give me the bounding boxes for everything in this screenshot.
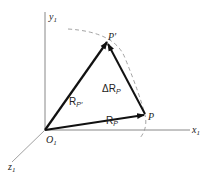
vector-r-p-prime <box>45 42 107 130</box>
x-axis-label: x1 <box>191 124 200 137</box>
vector-delta-r-p-label: ΔRP <box>102 83 121 95</box>
z-axis <box>12 130 45 162</box>
point-p-prime-label: P′ <box>107 31 117 42</box>
vector-r-p-prime-label: RP′ <box>69 96 83 108</box>
vector-r-p-label: RP <box>106 115 118 127</box>
z-axis-label: z1 <box>7 161 15 173</box>
point-p-label: P <box>147 111 154 122</box>
y-axis-label: y1 <box>48 11 57 24</box>
vector-delta-r-p <box>108 44 145 114</box>
origin-label: O1 <box>46 134 57 147</box>
vector-r-p <box>45 115 144 130</box>
position-difference-diagram: y1 x1 z1 O1 P′ P RP′ RP ΔRP <box>0 0 211 173</box>
